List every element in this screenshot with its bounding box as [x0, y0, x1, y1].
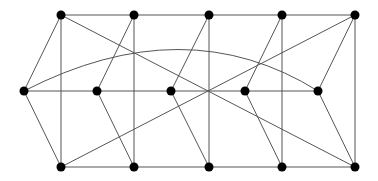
- node-B1: [57, 163, 66, 172]
- node-B3: [205, 163, 214, 172]
- edge-layer: [24, 15, 355, 167]
- edge-T3-M3: [171, 15, 209, 91]
- node-M1: [20, 87, 29, 96]
- node-B2: [130, 163, 139, 172]
- node-T3: [205, 11, 214, 20]
- edge-M1-B1: [24, 91, 61, 167]
- node-B4: [278, 163, 287, 172]
- arc-M1-M5: [24, 50, 318, 92]
- edge-M5-B5: [318, 91, 355, 167]
- edge-M3-B3: [171, 91, 209, 167]
- node-T1: [57, 11, 66, 20]
- node-T4: [278, 11, 287, 20]
- edge-T2-M2: [97, 15, 134, 91]
- node-M4: [241, 87, 250, 96]
- node-M3: [167, 87, 176, 96]
- node-T2: [130, 11, 139, 20]
- graph-diagram: [0, 0, 378, 181]
- arc-layer: [24, 50, 318, 92]
- node-B5: [351, 163, 360, 172]
- edge-M2-B2: [97, 91, 134, 167]
- edge-T5-M5: [318, 15, 355, 91]
- node-T5: [351, 11, 360, 20]
- edge-M4-B4: [245, 91, 282, 167]
- edge-M1-T1: [24, 15, 61, 91]
- node-M5: [314, 87, 323, 96]
- node-M2: [93, 87, 102, 96]
- edge-T4-M4: [245, 15, 282, 91]
